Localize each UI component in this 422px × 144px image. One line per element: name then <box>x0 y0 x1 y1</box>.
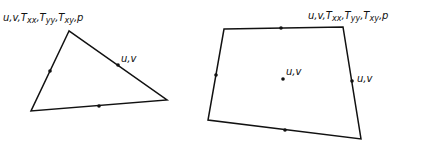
node-dot <box>48 69 52 73</box>
node-dot <box>283 128 287 132</box>
node-dot <box>97 104 101 108</box>
quadrilateral-midside-label: u,v <box>357 73 374 84</box>
triangle-midside-nodes <box>48 63 120 108</box>
quadrilateral-center-node <box>281 77 285 81</box>
quadrilateral-element <box>208 27 361 139</box>
triangle-corner-label: u,v,Txx,Tyy,Txy,p <box>3 12 83 25</box>
quadrilateral-center-label: u,v <box>286 66 303 77</box>
quadrilateral-element-group: u,v,Txx,Tyy,Txy,p u,v u,v <box>208 10 388 139</box>
node-dot <box>116 63 120 67</box>
finite-element-diagram: u,v,Txx,Tyy,Txy,p u,v u,v,Txx,Tyy,Txy,p … <box>0 0 422 144</box>
triangle-element-group: u,v,Txx,Tyy,Txy,p u,v <box>3 12 167 111</box>
node-dot <box>350 79 354 83</box>
node-dot <box>279 26 283 30</box>
quadrilateral-corner-label: u,v,Txx,Tyy,Txy,p <box>308 10 388 23</box>
triangle-midside-label: u,v <box>121 53 138 64</box>
node-dot <box>214 73 218 77</box>
